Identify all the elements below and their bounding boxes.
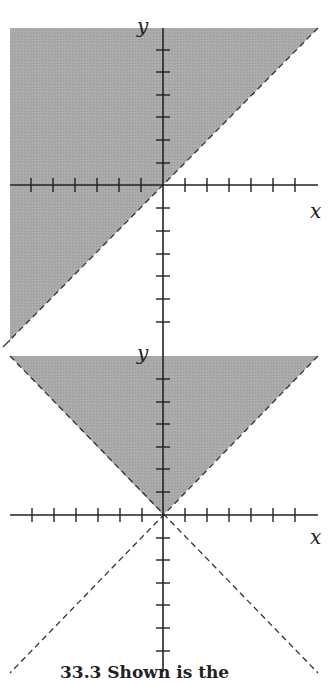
bottom-shaded-region xyxy=(10,356,318,515)
top-x-axis-label: x xyxy=(310,199,321,223)
top-graph: y x xyxy=(10,14,321,340)
bottom-y-axis-label: y xyxy=(136,341,149,365)
bottom-graph: y x xyxy=(3,340,321,673)
top-boundary-tail xyxy=(3,340,10,347)
figure-caption: 33.3 Shown is the xyxy=(60,662,229,682)
bottom-x-axis-label: x xyxy=(310,525,321,549)
diagram-canvas: y x xyxy=(0,0,331,683)
top-y-axis-label: y xyxy=(136,14,149,38)
